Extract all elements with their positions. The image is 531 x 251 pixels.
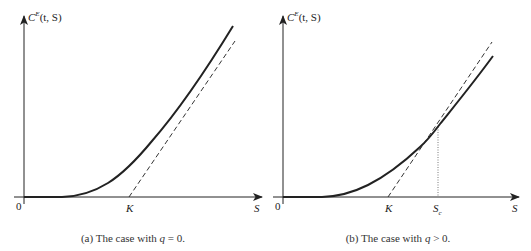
tick-label-k: K: [125, 202, 134, 214]
option-value-curve: [24, 26, 233, 197]
caption-a: (a) The case with q = 0.: [81, 232, 185, 245]
panel-a: CE(t, S) 0 K S (a) The case with q = 0.: [14, 10, 262, 245]
caption-b: (b) The case with q > 0.: [346, 232, 451, 245]
origin-label: 0: [16, 200, 22, 212]
payoff-dashed-line: [388, 42, 492, 197]
y-axis-label: CE(t, S): [28, 10, 62, 24]
option-value-curve: [283, 56, 493, 197]
tick-label-sc: Sc: [433, 202, 443, 217]
panel-b: CE(t, S) 0 K Sc S (b) The case with q > …: [273, 10, 519, 245]
x-axis-label: S: [512, 202, 518, 214]
origin-label: 0: [275, 200, 281, 212]
figure: CE(t, S) 0 K S (a) The case with q = 0. …: [0, 0, 531, 251]
payoff-dashed-line: [129, 41, 235, 197]
x-axis-label: S: [254, 202, 260, 214]
tick-label-k: K: [384, 202, 393, 214]
y-axis-label: CE(t, S): [287, 10, 321, 24]
